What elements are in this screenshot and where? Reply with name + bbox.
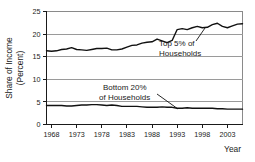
y-axis-ticks: 0510152025 [33,7,47,129]
series-line-top-5-percent [47,23,243,51]
y-tick-label-5: 5 [37,98,41,107]
x-tick-label-1978: 1978 [94,130,110,139]
income-share-line-chart: 0510152025 19681973197819831988199319982… [0,0,255,162]
x-tick-label-1993: 1993 [169,130,185,139]
top-annotation-line1: Top 5% of [159,39,195,48]
y-tick-label-10: 10 [33,75,41,84]
chart-figure: 0510152025 19681973197819831988199319982… [0,0,255,162]
bottom-annotation-line1: Bottom 20% [103,83,147,92]
y-axis-title-line1: Share of Income [4,37,14,99]
x-tick-label-1968: 1968 [44,130,60,139]
y-tick-label-0: 0 [37,120,41,129]
x-tick-label-1973: 1973 [69,130,85,139]
top-annotation: Top 5% of Households [159,28,205,58]
x-axis-ticks: 19681973197819831988199319982003 [44,125,236,140]
x-tick-label-1988: 1988 [144,130,160,139]
y-tick-label-15: 15 [33,52,41,61]
bottom-annotation-line2: of Households [99,93,150,102]
y-tick-label-20: 20 [33,30,41,39]
y-axis-title: Share of Income (Percent) [4,37,25,99]
x-tick-label-1983: 1983 [119,130,135,139]
x-tick-label-2003: 2003 [219,130,235,139]
series-line-bottom-20-percent [47,105,243,110]
y-tick-label-25: 25 [33,7,41,16]
top-annotation-line2: Households [159,49,201,58]
x-axis-title: Year [224,144,241,154]
y-axis-title-line2: (Percent) [15,51,25,86]
x-tick-label-1998: 1998 [194,130,210,139]
